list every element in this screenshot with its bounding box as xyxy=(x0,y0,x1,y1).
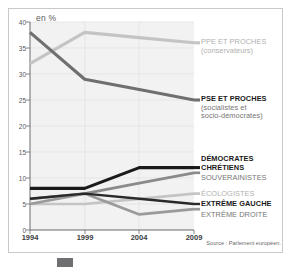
ytick-label-30: 30 xyxy=(10,71,26,78)
plot-background xyxy=(30,22,194,230)
ytick-label-40: 40 xyxy=(10,19,26,26)
ytick-label-15: 15 xyxy=(10,149,26,156)
axis-unit-label: en % xyxy=(36,13,56,23)
ytick-label-5: 5 xyxy=(10,201,26,208)
source-note: Source : Parlement européen. xyxy=(206,240,281,246)
legend-item-extreme-gauche: EXTRÊME GAUCHE xyxy=(201,200,272,209)
ytick-label-10: 10 xyxy=(10,175,26,182)
legend-label-dc-line2: CHRÉTIENS xyxy=(201,164,254,173)
page-tab-marker xyxy=(57,258,73,267)
xtick-label-2004: 2004 xyxy=(124,233,154,242)
chart-figure: en % 40 35 30 25 20 15 10 5 0 1994 1999 … xyxy=(0,0,293,270)
xtick-label-1999: 1999 xyxy=(70,233,100,242)
legend-item-ppe: PPE ET PROCHES (conservateurs) xyxy=(201,38,266,55)
legend-label-ppe-sub: (conservateurs) xyxy=(201,47,266,56)
ytick-label-25: 25 xyxy=(10,97,26,104)
legend-item-souverainistes: SOUVERAINISTES xyxy=(201,174,267,183)
legend-label-pse-sub2: socio-démocrates) xyxy=(201,112,267,121)
xtick-label-1994: 1994 xyxy=(15,233,45,242)
legend-item-extreme-droite: EXTRÊME DROITE xyxy=(201,211,267,220)
xtick-label-2009: 2009 xyxy=(179,233,209,242)
ytick-label-35: 35 xyxy=(10,45,26,52)
ytick-label-20: 20 xyxy=(10,123,26,130)
legend-item-democrates-chretiens: DÉMOCRATES CHRÉTIENS xyxy=(201,155,254,172)
legend-item-pse: PSE ET PROCHES (socialistes et socio-dém… xyxy=(201,95,267,121)
legend-item-ecologistes: ÉCOLOGISTES xyxy=(201,190,255,199)
